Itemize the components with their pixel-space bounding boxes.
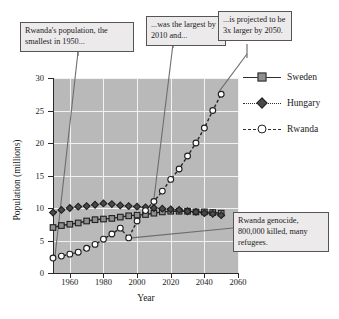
gridline-horizontal <box>53 241 238 242</box>
open-circle-icon <box>258 125 267 134</box>
filled-square-icon <box>258 73 267 82</box>
legend-item-sweden[interactable]: Sweden <box>243 64 337 90</box>
x-tick-label: 2000 <box>129 277 146 287</box>
y-tick-label: 30 <box>0 73 44 83</box>
callout-rwanda-smallest-1950: Rwanda's population, the smallest in 195… <box>20 22 134 52</box>
legend-label-hungary: Hungary <box>281 98 320 108</box>
x-tick-label: 1980 <box>95 277 112 287</box>
x-tick-label: 2040 <box>196 277 213 287</box>
y-tick-label: 10 <box>0 203 44 213</box>
y-tick-mark <box>48 176 53 177</box>
legend-key-rwanda <box>243 123 281 135</box>
legend-label-sweden: Sweden <box>281 72 317 82</box>
legend-label-rwanda: Rwanda <box>281 124 318 134</box>
gridline-horizontal <box>53 208 238 209</box>
filled-diamond-icon <box>256 97 267 108</box>
y-axis-line <box>53 78 54 274</box>
plot-area <box>53 78 238 273</box>
gridline-horizontal <box>53 111 238 112</box>
x-tick-label: 1960 <box>61 277 78 287</box>
y-tick-label: 5 <box>0 236 44 246</box>
callout-rwanda-genocide: Rwanda genocide, 800,000 killed, many re… <box>233 212 329 252</box>
callout-largest-by-2010: ...was the largest by 2010 and... <box>146 16 226 46</box>
gridline-horizontal <box>53 78 238 79</box>
y-tick-mark <box>48 143 53 144</box>
legend: Sweden Hungary Rwanda <box>243 64 337 142</box>
legend-item-rwanda[interactable]: Rwanda <box>243 116 337 142</box>
legend-key-sweden <box>243 71 281 83</box>
x-axis-line <box>53 273 239 274</box>
y-tick-label: 20 <box>0 138 44 148</box>
gridline-horizontal <box>53 143 238 144</box>
gridline-horizontal <box>53 176 238 177</box>
y-tick-mark <box>48 273 53 274</box>
y-tick-mark <box>48 208 53 209</box>
x-tick-label: 2020 <box>162 277 179 287</box>
chart-page: 051015202530 196019802000202020402060 Ye… <box>0 0 339 319</box>
y-tick-label: 25 <box>0 106 44 116</box>
x-tick-label: 2060 <box>230 277 247 287</box>
callout-projected-3x-2050: ...is projected to be 3x larger by 2050. <box>218 11 292 41</box>
legend-key-hungary <box>243 97 281 109</box>
y-tick-label: 0 <box>0 268 44 278</box>
y-tick-label: 15 <box>0 171 44 181</box>
x-axis-title: Year <box>53 293 239 303</box>
y-tick-mark <box>48 241 53 242</box>
y-axis-title: Population (millions) <box>12 120 22 240</box>
legend-item-hungary[interactable]: Hungary <box>243 90 337 116</box>
y-tick-mark <box>48 111 53 112</box>
y-tick-mark <box>48 78 53 79</box>
